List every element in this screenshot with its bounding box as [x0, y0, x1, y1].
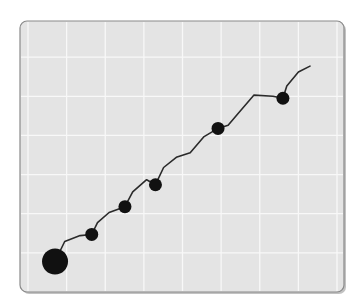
data-point-marker	[118, 200, 131, 213]
data-point-marker	[42, 248, 68, 274]
data-point-marker	[85, 228, 98, 241]
line-chart	[0, 0, 364, 307]
data-point-marker	[149, 178, 162, 191]
data-point-marker	[212, 122, 225, 135]
data-point-marker	[276, 92, 289, 105]
